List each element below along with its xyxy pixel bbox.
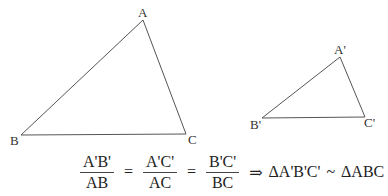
- ratio-ac: A'C' AC: [143, 154, 177, 191]
- triangle-abc: [21, 20, 186, 135]
- triangle-abc-symbol: ΔABC: [341, 163, 384, 181]
- label-a-prime: A': [334, 43, 346, 56]
- ratio-bc-numerator: B'C': [206, 154, 239, 172]
- ratio-ab-numerator: A'B': [80, 154, 114, 172]
- label-c-prime: C': [364, 116, 375, 129]
- ratio-bc-denominator: BC: [209, 173, 236, 191]
- similar-symbol: ~: [326, 163, 335, 181]
- equals-sign: =: [124, 163, 133, 181]
- ratio-bc: B'C' BC: [206, 154, 239, 191]
- label-b: B: [10, 134, 19, 147]
- triangle-prime-symbol: ΔA'B'C': [269, 163, 321, 181]
- ratio-ab: A'B' AB: [80, 154, 114, 191]
- label-b-prime: B': [250, 118, 261, 131]
- label-c: C: [188, 133, 197, 146]
- implies-arrow: ⇒: [249, 163, 262, 182]
- similarity-equation: A'B' AB = A'C' AC = B'C' BC ⇒ ΔA'B'C' ~ …: [76, 152, 384, 192]
- equals-sign: =: [187, 163, 196, 181]
- label-a: A: [138, 6, 147, 19]
- ratio-ac-denominator: AC: [146, 173, 174, 191]
- ratio-ab-denominator: AB: [83, 173, 111, 191]
- triangle-a-prime-b-prime-c-prime: [262, 57, 365, 118]
- ratio-ac-numerator: A'C': [143, 154, 177, 172]
